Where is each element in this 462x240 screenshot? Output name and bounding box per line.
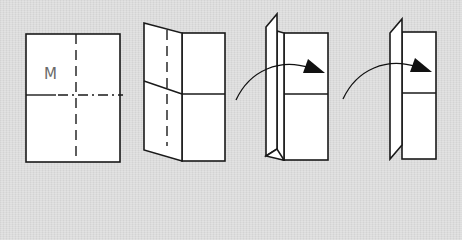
step-3-standing-flap (236, 14, 328, 160)
flap-back-sliver (277, 31, 284, 160)
right-panel (402, 32, 436, 159)
right-panel (182, 33, 225, 161)
mountain-fold-label: M (44, 65, 57, 83)
standing-flap-front (266, 14, 277, 156)
step-1-flat-sheet: M (26, 34, 123, 162)
standing-flap (390, 19, 402, 159)
sheet-outline (26, 34, 120, 162)
step-4-standing-flap (343, 19, 436, 159)
diagram-canvas: M (0, 0, 462, 178)
step-2-perspective-fold (144, 23, 225, 161)
right-panel (284, 33, 328, 160)
folding-diagram: M (0, 0, 462, 178)
